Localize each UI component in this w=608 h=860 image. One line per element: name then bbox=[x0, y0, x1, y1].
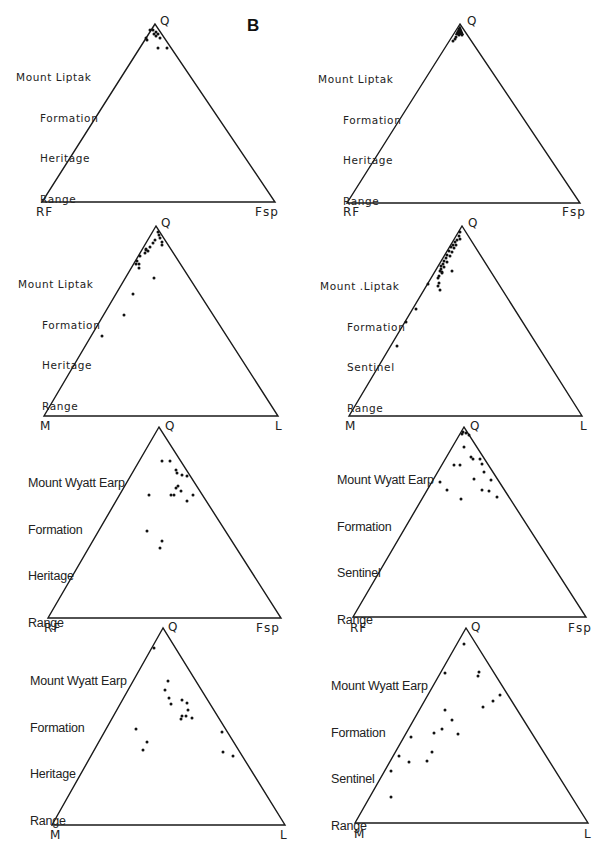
caption-line-2: Formation bbox=[30, 721, 127, 737]
data-point bbox=[142, 749, 145, 752]
data-point bbox=[463, 446, 466, 449]
data-point bbox=[477, 675, 480, 678]
data-point bbox=[451, 270, 454, 273]
vertex-label-right: L bbox=[584, 828, 592, 840]
data-point bbox=[453, 247, 456, 250]
data-point bbox=[170, 494, 173, 497]
data-point bbox=[488, 490, 491, 493]
data-point bbox=[451, 251, 454, 254]
data-point bbox=[478, 671, 481, 674]
data-point bbox=[158, 234, 161, 237]
vertex-label-top: Q bbox=[165, 420, 175, 432]
vertex-label-right: Fsp bbox=[562, 206, 586, 218]
vertex-label-right: Fsp bbox=[255, 206, 279, 218]
data-point bbox=[441, 728, 444, 731]
panel-caption: Mount Wyatt Earp Formation Heritage Rang… bbox=[30, 643, 127, 860]
vertex-label-right: L bbox=[275, 420, 283, 432]
panel-caption: Mount Liptak Formation Heritage Range bbox=[18, 251, 100, 440]
data-point bbox=[446, 261, 449, 264]
data-point bbox=[496, 496, 499, 499]
data-point bbox=[173, 494, 176, 497]
caption-line-1: Mount Wyatt Earp bbox=[331, 679, 428, 695]
data-point bbox=[154, 239, 157, 242]
data-point bbox=[444, 672, 447, 675]
data-point bbox=[181, 474, 184, 477]
data-point bbox=[161, 244, 164, 247]
data-point bbox=[135, 728, 138, 731]
caption-line-4: Range bbox=[16, 193, 98, 207]
data-point bbox=[161, 460, 164, 463]
caption-line-3: Heritage bbox=[30, 767, 127, 783]
data-point bbox=[132, 293, 135, 296]
data-point bbox=[157, 47, 160, 50]
caption-line-2: Formation bbox=[28, 523, 125, 539]
data-point bbox=[161, 540, 164, 543]
caption-line-3: Sentinel bbox=[331, 772, 428, 788]
caption-line-3: Heritage bbox=[318, 154, 401, 168]
data-point bbox=[186, 500, 189, 503]
data-point bbox=[440, 265, 443, 268]
caption-line-3: Heritage bbox=[16, 152, 98, 166]
panel-caption: Mount Wyatt Earp Formation Heritage Rang… bbox=[28, 445, 125, 662]
data-point bbox=[180, 718, 183, 721]
data-point bbox=[459, 231, 462, 234]
data-point bbox=[153, 647, 156, 650]
panel-caption: Mount Liptak Formation Heritage Range bbox=[318, 46, 401, 235]
data-point bbox=[168, 697, 171, 700]
data-point bbox=[166, 47, 169, 50]
caption-line-4: Range bbox=[28, 616, 125, 632]
caption-line-1: Mount Wyatt Earp bbox=[337, 473, 434, 489]
vertex-label-top: Q bbox=[168, 621, 178, 633]
data-point bbox=[482, 706, 485, 709]
caption-line-2: Formation bbox=[331, 726, 428, 742]
data-point bbox=[459, 238, 462, 241]
data-point bbox=[433, 732, 436, 735]
data-point bbox=[192, 494, 195, 497]
data-point bbox=[187, 709, 190, 712]
caption-line-4: Range bbox=[337, 613, 434, 629]
panel-caption: Mount Liptak Formation Heritage Range bbox=[16, 44, 98, 233]
data-point bbox=[146, 39, 149, 42]
vertex-label-top: Q bbox=[468, 217, 478, 229]
data-point bbox=[443, 260, 446, 263]
vertex-label-right: L bbox=[580, 420, 588, 432]
data-point bbox=[460, 498, 463, 501]
data-point bbox=[153, 33, 156, 36]
data-point bbox=[180, 490, 183, 493]
caption-line-4: Range bbox=[18, 400, 100, 414]
caption-line-4: Range bbox=[318, 195, 401, 209]
data-point bbox=[153, 277, 156, 280]
data-point bbox=[145, 249, 148, 252]
panel-caption: Mount Wyatt Earp Formation Sentinel Rang… bbox=[331, 648, 428, 860]
data-point bbox=[481, 489, 484, 492]
data-point bbox=[149, 29, 152, 32]
data-point bbox=[159, 547, 162, 550]
data-point bbox=[170, 703, 173, 706]
vertex-label-top: Q bbox=[471, 621, 481, 633]
data-point bbox=[452, 40, 455, 43]
data-point bbox=[438, 282, 441, 285]
data-point bbox=[481, 463, 484, 466]
data-point bbox=[181, 715, 184, 718]
data-point bbox=[169, 460, 172, 463]
data-point bbox=[444, 709, 447, 712]
data-point bbox=[468, 434, 471, 437]
panel-caption: Mount Wyatt Earp Formation Sentinel Rang… bbox=[337, 442, 434, 659]
data-point bbox=[443, 266, 446, 269]
caption-line-1: Mount Wyatt Earp bbox=[30, 674, 127, 690]
data-point bbox=[152, 29, 155, 32]
caption-line-2: Formation bbox=[320, 321, 405, 335]
data-point bbox=[446, 489, 449, 492]
data-point bbox=[191, 717, 194, 720]
data-point bbox=[101, 335, 104, 338]
data-point bbox=[175, 487, 178, 490]
caption-line-2: Formation bbox=[16, 112, 98, 126]
data-point bbox=[449, 255, 452, 258]
data-point bbox=[437, 285, 440, 288]
data-point bbox=[176, 472, 179, 475]
data-point bbox=[149, 246, 152, 249]
vertex-label-right: Fsp bbox=[256, 622, 280, 634]
caption-line-1: Mount Liptak bbox=[18, 278, 100, 292]
data-point bbox=[146, 530, 149, 533]
data-point bbox=[441, 271, 444, 274]
